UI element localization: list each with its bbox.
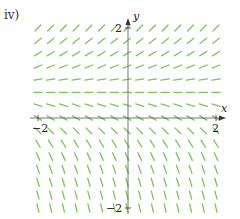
slope-segment: [101, 204, 103, 212]
slope-segment: [98, 104, 106, 106]
slope-segment: [62, 191, 64, 199]
slope-segment: [49, 153, 52, 161]
x-axis-arrow-icon: [219, 116, 226, 121]
slope-segment: [177, 191, 179, 199]
slope-segment: [148, 104, 156, 106]
slope-segment: [111, 128, 117, 134]
slope-segment: [176, 153, 179, 161]
slope-segment: [174, 52, 181, 56]
slope-segment: [47, 79, 55, 80]
slope-segment: [212, 79, 220, 80]
slope-segment: [110, 65, 118, 68]
slope-segment: [100, 153, 103, 161]
slope-segment: [60, 65, 68, 68]
slope-segment: [137, 140, 141, 147]
slope-segment: [162, 38, 169, 43]
slope-segment: [101, 191, 103, 199]
slope-segment: [48, 25, 54, 31]
slope-segment: [113, 153, 116, 161]
slope-segment: [190, 204, 192, 212]
slope-segment: [75, 204, 77, 212]
slope-segment: [177, 204, 179, 212]
slope-segment: [86, 128, 92, 134]
slope-segment: [163, 140, 167, 147]
slope-segment: [199, 65, 207, 68]
slope-segment: [47, 52, 54, 56]
slope-segment: [98, 65, 106, 68]
slope-segment: [86, 25, 92, 31]
slope-segment: [123, 104, 131, 106]
axes: x y −2 2 2 −2: [30, 10, 228, 215]
slope-segment: [213, 38, 220, 43]
slope-segment: [149, 38, 156, 43]
slope-segment: [175, 25, 181, 31]
slope-segment: [162, 25, 168, 31]
slope-segment: [37, 178, 39, 186]
slope-segment: [125, 140, 129, 147]
slope-segment: [151, 165, 154, 173]
slope-segment: [187, 52, 194, 56]
slope-segment: [199, 104, 207, 106]
slope-segment: [87, 140, 91, 147]
slope-segment: [176, 140, 180, 147]
slope-segment: [34, 79, 42, 80]
slope-segment: [86, 38, 93, 43]
slope-segment: [138, 165, 141, 173]
slope-segment: [87, 153, 90, 161]
slope-segment: [111, 38, 118, 43]
slope-segment: [110, 104, 118, 106]
slope-segment: [136, 52, 143, 56]
y-tick-label-2: 2: [115, 22, 122, 35]
slope-segment: [138, 153, 141, 161]
slope-segment: [75, 191, 77, 199]
slope-segment: [175, 128, 181, 134]
slope-segment: [88, 204, 90, 212]
slope-segment: [59, 104, 67, 106]
y-axis-label: y: [132, 10, 140, 23]
slope-segment: [34, 104, 42, 106]
slope-segment: [34, 52, 41, 56]
slope-segment: [99, 128, 105, 134]
slope-segment: [62, 178, 64, 186]
slope-segment: [161, 104, 169, 106]
slope-segment: [202, 178, 204, 186]
x-axis-label: x: [221, 102, 228, 115]
slope-segment: [60, 25, 66, 31]
slope-segment: [37, 191, 39, 199]
slope-segment: [60, 52, 67, 56]
slope-segment: [212, 65, 220, 68]
slope-segment: [137, 25, 143, 31]
x-tick-label-neg2: −2: [32, 122, 48, 135]
slope-segment: [174, 79, 182, 80]
slope-segment: [97, 79, 105, 80]
slope-segment: [123, 79, 131, 80]
slope-segment: [75, 178, 77, 186]
slope-segment: [161, 65, 169, 68]
slope-segment: [35, 25, 41, 31]
slope-segment: [36, 140, 40, 147]
slope-segment: [73, 52, 80, 56]
slope-segment: [175, 38, 182, 43]
slope-segment: [164, 165, 167, 173]
slope-segment: [202, 191, 204, 199]
slope-segment: [188, 140, 192, 147]
slope-segment: [62, 165, 65, 173]
slope-segment: [149, 128, 155, 134]
slope-segment: [174, 104, 182, 106]
slope-segment: [200, 38, 207, 43]
slope-segment: [200, 52, 207, 56]
slope-segment: [60, 38, 67, 43]
slope-segment: [200, 25, 206, 31]
slope-segment: [188, 128, 194, 134]
slope-segment: [112, 140, 116, 147]
slope-segment: [85, 52, 92, 56]
slope-segment: [136, 79, 144, 80]
slope-segment: [189, 165, 192, 173]
slope-segment: [189, 153, 192, 161]
slope-segment: [48, 128, 54, 134]
slope-field-plot: x y −2 2 2 −2: [0, 0, 240, 219]
slope-segment: [151, 178, 153, 186]
slope-segment: [73, 128, 79, 134]
slope-segment: [113, 191, 115, 199]
slope-segment: [150, 140, 154, 147]
